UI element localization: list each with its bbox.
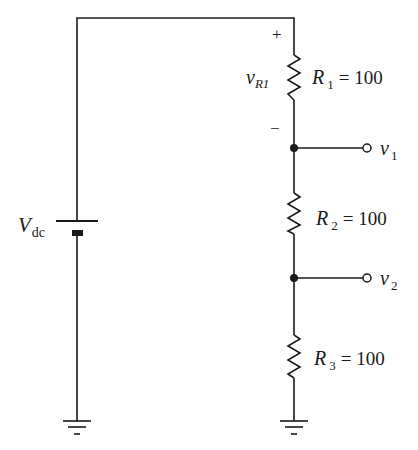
plus-sign: + xyxy=(272,25,282,44)
ground-icon-right xyxy=(280,421,308,434)
circuit-diagram: + − vR1 R1= 100 R2= 100 R3= 100 v1 v2 Vd… xyxy=(0,0,418,450)
battery-short-plate xyxy=(72,230,83,236)
v2-label: v2 xyxy=(380,267,397,293)
v1-label: v1 xyxy=(380,137,397,163)
resistor-r1 xyxy=(288,55,300,100)
top-wire xyxy=(77,18,294,221)
resistor-r2 xyxy=(288,193,300,234)
output-1-terminal[interactable] xyxy=(363,144,371,152)
r2-label: R2= 100 xyxy=(315,207,387,233)
vr1-label: vR1 xyxy=(246,66,269,91)
r1-label: R1= 100 xyxy=(311,66,383,92)
ground-icon-left xyxy=(63,421,91,434)
resistor-r3 xyxy=(288,335,300,378)
vdc-label: Vdc xyxy=(18,213,45,240)
output-2-terminal[interactable] xyxy=(363,274,371,282)
minus-sign: − xyxy=(270,119,280,138)
r3-label: R3= 100 xyxy=(313,347,385,373)
